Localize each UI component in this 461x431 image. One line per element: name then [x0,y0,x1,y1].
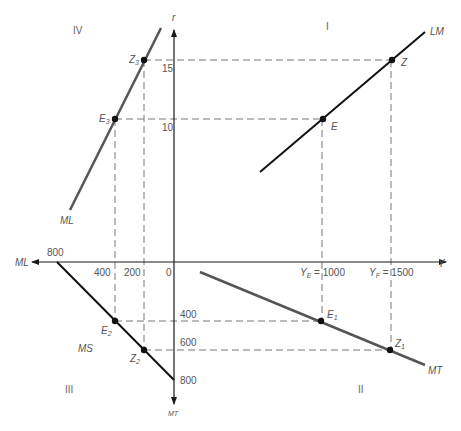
tick-origin: 0 [166,267,172,278]
point-z3 [141,57,147,63]
point-e1 [318,318,324,324]
ml-axis-label: ML [15,257,29,268]
ml-line-label: ML [60,215,74,226]
point-z [389,57,395,63]
y-axis-label: Y [438,258,446,269]
lm-line-label: LM [430,26,445,37]
mt-axis-label: MT [168,410,179,417]
tick-yf-1500: YF = 1500 [369,267,414,279]
label-z1: Z1 [394,338,405,350]
label-e: E [331,121,338,132]
points [112,57,395,353]
tick-r-15: 15 [162,63,174,74]
label-z: Z [400,57,408,68]
label-z2: Z2 [129,353,140,365]
projection-lines [115,60,392,350]
point-z1 [387,347,393,353]
point-e [320,116,326,122]
label-e2: E2 [101,325,112,337]
tick-down-400: 400 [180,309,197,320]
r-axis-label: r [172,12,176,23]
tick-left-400: 400 [94,267,111,278]
tick-left-200: 200 [124,267,141,278]
mt-line-label: MT [428,365,443,376]
point-z2 [141,347,147,353]
quadrant-label-i: I [326,21,329,32]
tick-ye-1000: YE = 1000 [300,267,345,279]
ms-line-label: MS [78,343,93,354]
label-e3: E3 [99,113,110,125]
lm-line [260,32,425,172]
point-e3 [112,116,118,122]
tick-r-10: 10 [162,122,174,133]
four-quadrant-diagram: I II III IV r MT Y ML 15 10 0 200 400 80… [0,0,461,431]
quadrant-label-iv: IV [73,25,83,36]
quadrant-label-iii: III [65,384,73,395]
label-z3: Z3 [128,54,139,66]
point-e2 [112,318,118,324]
quadrant-label-ii: II [358,384,364,395]
label-e1: E1 [327,309,338,321]
tick-down-800: 800 [180,375,197,386]
tick-down-600: 600 [180,337,197,348]
tick-left-800: 800 [47,247,64,258]
